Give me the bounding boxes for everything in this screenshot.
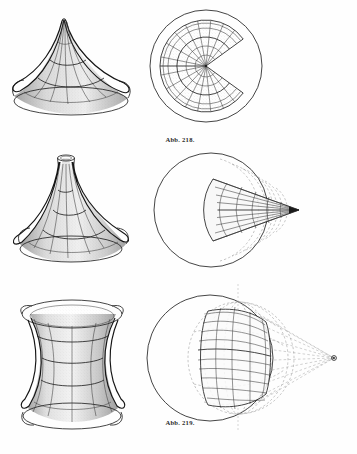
figure-220: Abb. 220. [0, 292, 357, 450]
trumpet-surface-icon [0, 148, 150, 284]
figure-219-right-panel [145, 148, 357, 284]
cone-surface-icon [0, 8, 150, 138]
figure-218: Abb. 218. [0, 8, 357, 150]
figure-218-caption: Abb. 218. [120, 136, 240, 143]
figure-219: Abb. 219. [0, 148, 357, 290]
figure-220-right-panel [145, 292, 357, 434]
figure-220-left-panel [0, 292, 150, 434]
wedge-grid-icon [145, 148, 357, 284]
book-page: Abb. 218. [0, 0, 357, 454]
polar-sector-icon [145, 8, 357, 138]
hyperboloid-surface-icon [0, 292, 150, 434]
figure-219-left-panel [0, 148, 150, 284]
figure-218-left-panel [0, 8, 150, 138]
figure-218-right-panel [145, 8, 357, 138]
sphere-lune-icon [145, 292, 357, 434]
